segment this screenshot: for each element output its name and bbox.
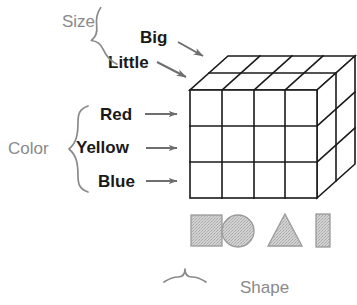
color-brace-icon xyxy=(69,106,88,192)
arrow-right-down-icon-little xyxy=(157,62,186,77)
size-brace-icon xyxy=(83,8,117,70)
triangle-icon xyxy=(268,214,302,246)
size-arrows-group xyxy=(157,42,203,77)
shape-brace-icon xyxy=(164,269,206,282)
arrow-right-down-icon-big xyxy=(178,42,203,56)
circle-icon xyxy=(222,215,254,247)
color-arrows-group xyxy=(145,114,177,181)
rectangle-icon xyxy=(316,214,330,247)
cube-3d xyxy=(190,56,355,198)
square-icon xyxy=(191,215,222,246)
shape-glyph-row xyxy=(191,214,330,247)
diagram-artwork xyxy=(0,0,357,305)
diagram-canvas: Size Color Shape Big Little Red Yellow B… xyxy=(0,0,357,305)
